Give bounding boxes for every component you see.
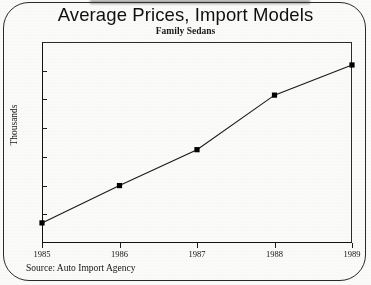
y-tick-mark	[42, 214, 47, 215]
y-tick-mark	[42, 71, 47, 72]
chart-subtitle: Family Sedans	[0, 26, 371, 36]
chart-figure: Average Prices, Import Models Family Sed…	[0, 0, 371, 285]
chart-title: Average Prices, Import Models	[0, 4, 371, 26]
x-tick-label: 1989	[332, 249, 371, 259]
source-note: Source: Auto Import Agency	[26, 263, 136, 273]
x-tick-label: 1987	[177, 249, 217, 259]
x-tick-mark	[352, 243, 353, 248]
x-tick-label: 1986	[100, 249, 140, 259]
y-tick-mark	[42, 99, 47, 100]
x-tick-mark	[275, 243, 276, 248]
x-tick-mark	[120, 243, 121, 248]
x-tick-mark	[42, 243, 43, 248]
y-tick-mark	[42, 157, 47, 158]
y-tick-mark	[42, 128, 47, 129]
y-tick-mark	[42, 186, 47, 187]
plot-area	[42, 42, 352, 243]
y-axis-label: Thousands	[9, 90, 19, 160]
x-tick-label: 1988	[255, 249, 295, 259]
x-tick-mark	[197, 243, 198, 248]
x-tick-label: 1985	[22, 249, 62, 259]
